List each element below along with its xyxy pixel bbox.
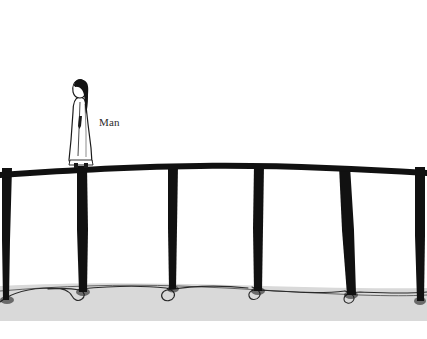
figure-foot-left: [74, 163, 78, 168]
post-6: [415, 167, 425, 301]
post-2: [77, 166, 88, 292]
sketch-illustration: Man: [0, 0, 427, 339]
figure-foot-right: [84, 163, 88, 168]
ground-fill: [0, 283, 427, 322]
ground-bottom-margin: [0, 321, 427, 339]
figure-hem: [69, 160, 93, 165]
sketch-canvas: Man: [0, 0, 427, 339]
man-label: Man: [99, 116, 120, 128]
